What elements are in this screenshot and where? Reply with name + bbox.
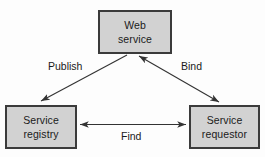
edge-label-bind: Bind (180, 60, 203, 72)
node-service-requestor: Service requestor (189, 105, 260, 149)
edge-label-find: Find (120, 130, 142, 142)
node-service-registry-line1: Service (23, 113, 59, 127)
node-service-registry-line2: registry (23, 127, 58, 141)
node-service-requestor-line1: Service (207, 113, 243, 127)
diagram-canvas: Web service Service registry Service req… (0, 0, 265, 157)
node-service-registry: Service registry (5, 105, 77, 149)
edge-label-publish: Publish (47, 60, 83, 72)
node-service-requestor-line2: requestor (202, 127, 247, 141)
node-web-service: Web service (98, 10, 172, 54)
edge-bind-line (139, 56, 219, 102)
node-web-service-line2: service (118, 32, 152, 46)
node-web-service-line1: Web (124, 18, 146, 32)
